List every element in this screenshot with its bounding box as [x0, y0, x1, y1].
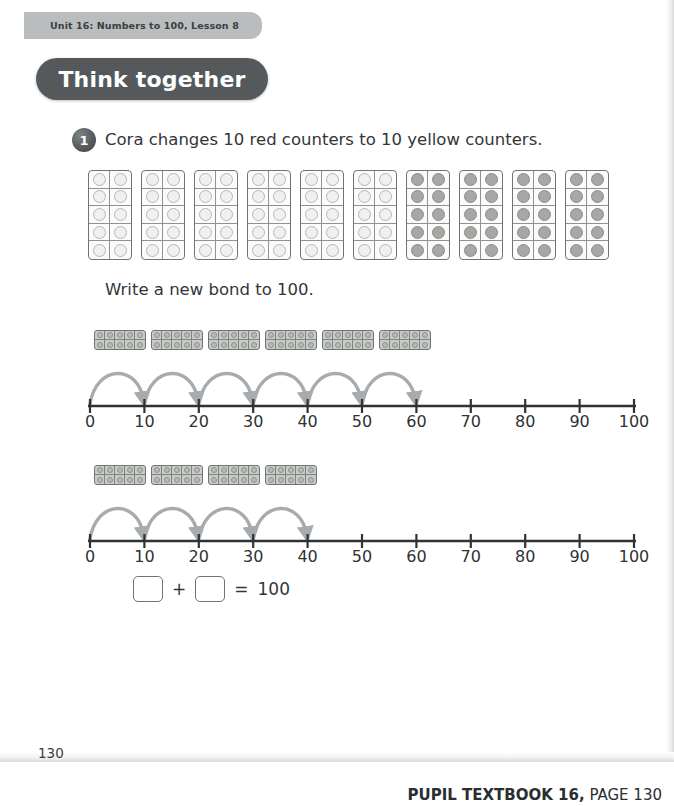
- counter-yellow: [485, 190, 498, 203]
- answer-box-first[interactable]: [133, 576, 163, 602]
- counter-yellow: [432, 226, 445, 239]
- ten-frame-cell: [249, 331, 259, 340]
- counter-yellow: [538, 173, 551, 186]
- counter: [392, 332, 398, 338]
- jump-arrow: [199, 508, 252, 539]
- ten-frame-cell: [481, 171, 502, 189]
- counter: [137, 332, 143, 338]
- counter: [164, 342, 170, 348]
- ten-frame-cell: [125, 466, 135, 475]
- counter-yellow: [432, 244, 445, 257]
- counter: [184, 332, 190, 338]
- ten-frame-yellow: [459, 170, 503, 260]
- counter-yellow: [517, 190, 530, 203]
- ten-frame-cell: [410, 340, 420, 349]
- ten-frame-cell: [152, 331, 162, 340]
- axis-tick-label: 60: [406, 412, 426, 431]
- ten-frame-cell: [354, 189, 375, 207]
- answer-box-second[interactable]: [195, 576, 225, 602]
- counter: [268, 467, 274, 473]
- counter: [298, 477, 304, 483]
- ten-frame-cell: [89, 189, 110, 207]
- ten-frame-cell: [587, 241, 608, 259]
- ten-frame-cell: [216, 241, 237, 259]
- ten-frame-cell: [163, 241, 184, 259]
- counter: [422, 342, 428, 348]
- counter-red: [358, 226, 371, 239]
- counter: [402, 342, 408, 348]
- counter-red: [273, 190, 286, 203]
- ten-frame-cell: [229, 340, 239, 349]
- numberline-arrows-yellow: [84, 487, 644, 549]
- jump-arrow: [144, 373, 197, 404]
- counter-yellow: [432, 173, 445, 186]
- counter-yellow: [517, 173, 530, 186]
- ten-frame-cell: [135, 466, 145, 475]
- counter: [137, 467, 143, 473]
- counter: [97, 332, 103, 338]
- counter: [278, 477, 284, 483]
- ten-frame-cell: [219, 331, 229, 340]
- plus-sign: +: [172, 579, 186, 599]
- ten-frame-cell: [152, 475, 162, 484]
- ten-frame-cell: [481, 206, 502, 224]
- counter-red: [379, 173, 392, 186]
- counter: [221, 467, 227, 473]
- axis-tick-label: 0: [85, 547, 95, 566]
- counter-yellow: [411, 208, 424, 221]
- footer-source-bold: PUPIL TEXTBOOK 16,: [407, 786, 584, 804]
- ten-frame-cell: [333, 331, 343, 340]
- ten-frame-cell: [354, 224, 375, 242]
- counter-red: [93, 244, 106, 257]
- ten-frame-cell: [95, 331, 105, 340]
- ten-frame-red: [194, 170, 238, 260]
- ten-frame-cell: [195, 224, 216, 242]
- counter: [335, 332, 341, 338]
- ten-frame-cell: [390, 340, 400, 349]
- counter: [154, 332, 160, 338]
- ten-frame-cell: [407, 241, 428, 259]
- counter-red: [199, 190, 212, 203]
- counter-red: [305, 190, 318, 203]
- counter: [194, 332, 200, 338]
- counter: [127, 467, 133, 473]
- counter: [268, 342, 274, 348]
- ten-frame-red: [247, 170, 291, 260]
- counter: [288, 477, 294, 483]
- counter-yellow: [538, 190, 551, 203]
- page-number: 130: [38, 745, 64, 761]
- axis-tick-label: 70: [461, 412, 481, 431]
- ten-frame-cell: [248, 206, 269, 224]
- counter-red: [305, 173, 318, 186]
- counter-red: [273, 244, 286, 257]
- counter-red: [199, 173, 212, 186]
- counter-yellow: [411, 244, 424, 257]
- counter-red: [305, 208, 318, 221]
- axis-tick-label: 10: [134, 547, 154, 566]
- ten-frame-cell: [152, 340, 162, 349]
- ten-frame-cell: [407, 206, 428, 224]
- counter: [117, 342, 123, 348]
- counter-red: [305, 226, 318, 239]
- counter: [221, 332, 227, 338]
- ten-frame-cell: [162, 340, 172, 349]
- counter-yellow: [464, 173, 477, 186]
- ten-frame-cell: [182, 331, 192, 340]
- counter-red: [93, 173, 106, 186]
- ten-frame-cell: [566, 241, 587, 259]
- counter: [325, 332, 331, 338]
- ten-frame-cell: [375, 224, 396, 242]
- ten-frame-cell: [229, 466, 239, 475]
- ten-frame-yellow: [565, 170, 609, 260]
- ten-frame-cell: [248, 171, 269, 189]
- ten-frame-cell: [354, 171, 375, 189]
- ten-frame-cell: [587, 224, 608, 242]
- ten-frame-cell: [306, 340, 316, 349]
- counter: [241, 467, 247, 473]
- counter: [154, 477, 160, 483]
- counter: [107, 332, 113, 338]
- ten-frame-cell: [354, 241, 375, 259]
- counter: [174, 332, 180, 338]
- ten-frame-red: [353, 170, 397, 260]
- counter: [221, 342, 227, 348]
